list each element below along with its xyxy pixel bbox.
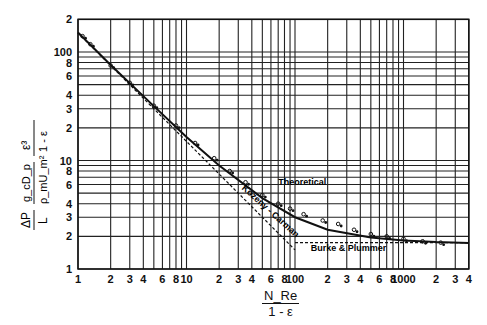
y-tick-label: 1 xyxy=(66,263,72,275)
x-tick-label: 3 xyxy=(127,273,133,285)
x-tick-label: 4 xyxy=(466,273,473,285)
y-tick-label: 4 xyxy=(66,198,73,210)
y-tick-label: 2 xyxy=(66,122,72,134)
x-tick-label: 1000 xyxy=(391,273,415,285)
x-tick-label: 1 xyxy=(75,273,81,285)
annotation-burke-plummer: Burke & Plummer xyxy=(311,243,387,253)
data-point-marker xyxy=(216,159,219,162)
data-point-marker xyxy=(321,219,325,223)
x-label-num: N_Re xyxy=(262,288,299,304)
y-tick-label: 2 xyxy=(66,13,72,25)
data-point-marker xyxy=(280,204,283,207)
x-tick-label: 2 xyxy=(325,273,331,285)
y-label-num2: g_cD_p xyxy=(20,164,32,202)
data-point-marker xyxy=(292,209,295,212)
data-point-marker xyxy=(302,212,306,216)
y-tick-label: 3 xyxy=(66,103,72,115)
x-tick-label: 6 xyxy=(268,273,274,285)
y-tick-label: 3 xyxy=(66,211,72,223)
x-tick-label: 4 xyxy=(249,273,256,285)
x-tick-label: 100 xyxy=(286,273,304,285)
data-point-marker xyxy=(442,243,445,246)
y-tick-label: 8 xyxy=(66,57,72,69)
data-point-marker xyxy=(388,237,391,240)
y-tick-label: 100 xyxy=(54,46,72,58)
data-point-marker xyxy=(92,45,95,48)
data-point-marker xyxy=(324,221,327,224)
data-point-marker xyxy=(305,215,308,218)
x-axis-label: N_Re 1 - ε xyxy=(262,288,299,319)
data-point-marker xyxy=(212,156,216,160)
x-tick-label: 6 xyxy=(159,273,165,285)
data-point-marker xyxy=(84,37,87,40)
y-tick-label: 4 xyxy=(66,89,73,101)
y-label-den2: ρ_mU_m² xyxy=(37,155,49,204)
y-tick-label: 8 xyxy=(66,165,72,177)
data-point-marker xyxy=(112,66,115,69)
y-label-num3: ε³ xyxy=(19,141,33,150)
data-point-marker xyxy=(197,144,200,147)
data-point-marker xyxy=(336,222,340,226)
x-tick-label: 2 xyxy=(433,273,439,285)
data-point-marker xyxy=(405,239,408,242)
data-point-marker xyxy=(231,172,234,175)
data-point-marker xyxy=(131,83,134,86)
y-axis-label-graphic: ΔP L g_cD_p ρ_mU_m² ε³ 1 - ε xyxy=(4,110,64,240)
chart-plot: 1234681023468100234681000234123468102346… xyxy=(0,0,487,325)
x-tick-label: 2 xyxy=(108,273,114,285)
data-point-marker xyxy=(340,225,343,228)
x-tick-label: 4 xyxy=(357,273,364,285)
x-tick-label: 2 xyxy=(216,273,222,285)
annotation-theoretical: Theoretical xyxy=(278,177,326,187)
x-tick-label: 4 xyxy=(140,273,147,285)
x-label-den: 1 - ε xyxy=(262,304,299,319)
y-label-den1: L xyxy=(36,217,50,224)
y-tick-label: 2 xyxy=(66,230,72,242)
y-axis-label: ΔP L g_cD_p ρ_mU_m² ε³ 1 - ε xyxy=(4,110,64,240)
x-tick-label: 3 xyxy=(235,273,241,285)
data-point-marker xyxy=(372,235,375,238)
x-tick-label: 6 xyxy=(376,273,382,285)
data-point-marker xyxy=(352,228,356,232)
data-point-marker xyxy=(424,242,427,245)
x-tick-label: 3 xyxy=(452,273,458,285)
data-point-marker xyxy=(178,126,181,129)
y-label-den3: 1 - ε xyxy=(37,131,49,152)
x-tick-label: 3 xyxy=(344,273,350,285)
y-tick-label: 6 xyxy=(66,70,72,82)
x-tick-label: 10 xyxy=(180,273,192,285)
data-point-marker xyxy=(356,230,359,233)
y-label-num1: ΔP xyxy=(19,212,33,228)
data-point-marker xyxy=(155,106,158,109)
x-tick-label: 8 xyxy=(173,273,179,285)
y-tick-label: 6 xyxy=(66,179,72,191)
